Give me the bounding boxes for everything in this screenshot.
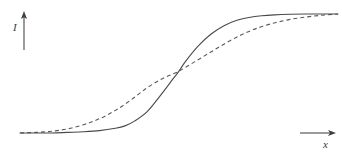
curves-group xyxy=(20,14,338,133)
solid-sigmoid-curve xyxy=(20,14,338,133)
x-axis-label: x xyxy=(322,138,328,150)
dashed-sigmoid-curve xyxy=(20,14,338,133)
figure-container: I x xyxy=(0,0,342,155)
sigmoid-figure-svg: I x xyxy=(0,0,342,155)
y-axis-group: I xyxy=(12,11,27,50)
y-axis-label: I xyxy=(12,21,18,33)
x-axis-group: x xyxy=(300,130,336,150)
